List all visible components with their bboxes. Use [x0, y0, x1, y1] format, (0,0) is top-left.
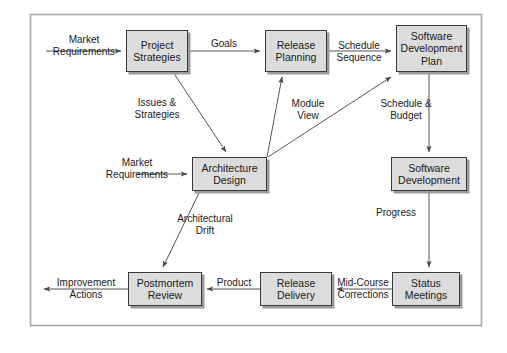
node-release-delivery[interactable]: Release Delivery	[260, 272, 332, 306]
node-label-line: Software	[399, 30, 465, 43]
node-label-line: Review	[135, 289, 196, 302]
node-label-line: Plan	[399, 55, 465, 68]
edge-label-market-requirements-top: Market Requirements	[43, 34, 125, 58]
edge-label-mid-course-corrections: Mid-Course Corrections	[331, 277, 395, 301]
node-label-line: Status	[403, 277, 450, 290]
edge-label-market-requirements-mid: Market Requirements	[96, 157, 178, 181]
edge-label-progress: Progress	[366, 207, 426, 219]
node-postmortem-review[interactable]: Postmortem Review	[128, 272, 202, 306]
node-software-development-plan[interactable]: Software Development Plan	[396, 25, 467, 72]
edge-label-product: Product	[206, 277, 262, 289]
node-label-line: Planning	[274, 51, 319, 64]
node-label-line: Postmortem	[135, 277, 196, 290]
node-label-line: Design	[199, 174, 259, 187]
edge-label-improvement-actions: Improvement Actions	[47, 277, 125, 301]
node-label-line: Development	[399, 42, 465, 55]
diagram-canvas: Project Strategies Release Planning Soft…	[0, 0, 507, 353]
edge-label-schedule-budget: Schedule & Budget	[370, 98, 442, 122]
node-label-line: Delivery	[275, 289, 318, 302]
node-label-line: Software	[396, 162, 462, 175]
edge-label-module-view: Module View	[280, 98, 336, 122]
edge-label-goals: Goals	[192, 38, 256, 50]
node-label-line: Release	[275, 277, 318, 290]
node-label-line: Meetings	[403, 289, 450, 302]
edge-label-architectural-drift: Architectural Drift	[166, 213, 244, 237]
node-project-strategies[interactable]: Project Strategies	[126, 30, 188, 72]
edge-label-schedule-sequence: Schedule Sequence	[328, 40, 390, 64]
node-software-development[interactable]: Software Development	[391, 157, 467, 191]
node-label-line: Architecture	[199, 162, 259, 175]
node-architecture-design[interactable]: Architecture Design	[192, 157, 267, 191]
node-label-line: Release	[274, 39, 319, 52]
node-release-planning[interactable]: Release Planning	[265, 30, 327, 72]
node-label-line: Development	[396, 174, 462, 187]
node-label-line: Strategies	[131, 51, 182, 64]
node-status-meetings[interactable]: Status Meetings	[392, 272, 460, 306]
node-label-line: Project	[131, 39, 182, 52]
edge-label-issues-strategies: Issues & Strategies	[120, 97, 194, 121]
